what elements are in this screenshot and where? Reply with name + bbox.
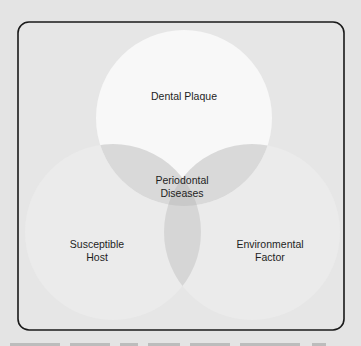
label-periodontal-diseases: Periodontal Diseases	[132, 174, 232, 200]
venn-diagram-graphic	[0, 0, 361, 346]
clipped-caption	[0, 339, 361, 346]
label-dental-plaque: Dental Plaque	[124, 90, 244, 103]
label-environmental-factor: Environmental Factor	[220, 238, 320, 264]
label-susceptible-host: Susceptible Host	[52, 238, 142, 264]
venn-diagram-figure: Dental Plaque Periodontal Diseases Susce…	[0, 0, 361, 346]
